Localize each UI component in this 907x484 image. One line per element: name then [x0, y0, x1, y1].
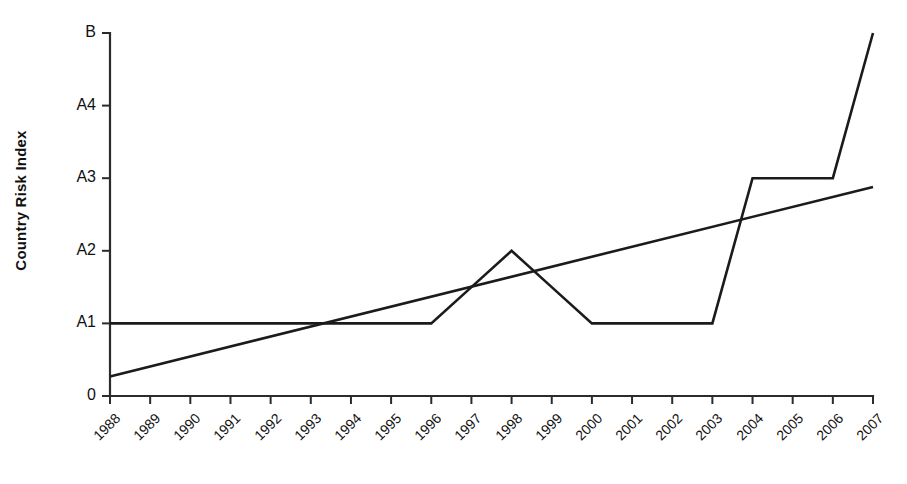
x-axis-ticks	[110, 396, 873, 404]
plot-area	[0, 0, 907, 484]
series-country-risk-index	[110, 33, 873, 323]
series-linear-trend	[110, 187, 873, 376]
y-axis-ticks	[102, 33, 110, 396]
chart-figure: Country Risk Index 0A1A2A3A4B 1988198919…	[0, 0, 907, 484]
data-series-group	[110, 33, 873, 376]
